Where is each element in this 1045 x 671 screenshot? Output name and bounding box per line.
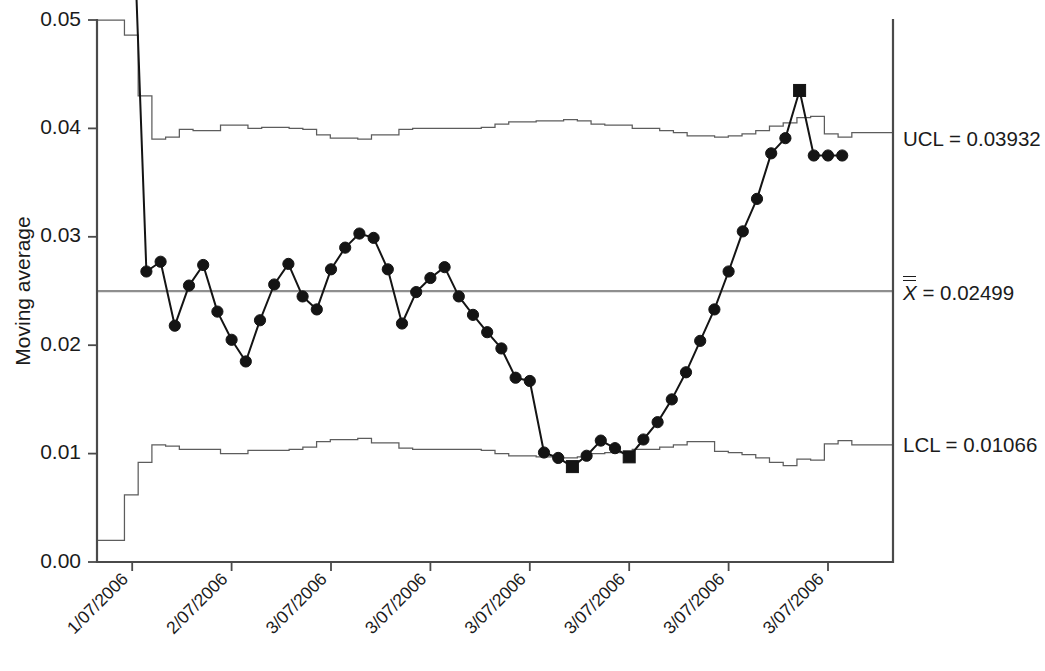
x-axis-ticks (132, 562, 828, 571)
data-point-violation (566, 461, 578, 473)
data-point (666, 394, 677, 405)
data-series (118, 0, 848, 473)
data-point (198, 259, 209, 270)
data-point (553, 452, 564, 463)
data-point (368, 232, 379, 243)
data-point (709, 304, 720, 315)
data-point (354, 228, 365, 239)
data-point (538, 447, 549, 458)
control-limit-lines (97, 20, 893, 540)
lcl-stepped-line (97, 438, 893, 540)
data-point (822, 150, 833, 161)
x-tick-label: 3/07/2006 (460, 569, 529, 638)
data-point (766, 148, 777, 159)
data-point (638, 434, 649, 445)
data-point (609, 443, 620, 454)
data-point (254, 315, 265, 326)
data-point (297, 291, 308, 302)
axis-labels: 0.000.010.020.030.040.05 1/07/20062/07/2… (11, 7, 828, 638)
lcl-annotation: LCL = 0.01066 (903, 435, 1037, 456)
data-point-violation (623, 451, 635, 463)
data-point (240, 356, 251, 367)
data-point (524, 375, 535, 386)
y-tick-label: 0.04 (40, 115, 81, 138)
data-point (695, 335, 706, 346)
data-point (496, 343, 507, 354)
data-point (183, 280, 194, 291)
data-point (780, 133, 791, 144)
y-tick-label: 0.01 (40, 440, 81, 463)
x-tick-label: 3/07/2006 (659, 569, 728, 638)
x-tick-label: 2/07/2006 (162, 569, 231, 638)
chart-canvas: 0.000.010.020.030.040.05 1/07/20062/07/2… (0, 0, 1045, 671)
data-point (595, 435, 606, 446)
data-point (340, 242, 351, 253)
data-point (467, 309, 478, 320)
data-point (723, 266, 734, 277)
data-point (680, 367, 691, 378)
moving-average-line (118, 0, 842, 467)
data-point (425, 272, 436, 283)
center-line-symbol: X (903, 281, 917, 304)
data-point-markers (141, 84, 848, 472)
data-point (382, 264, 393, 275)
axes (88, 20, 893, 571)
x-tick-label: 3/07/2006 (262, 569, 331, 638)
ucl-annotation: UCL = 0.03932 (903, 129, 1041, 150)
y-tick-labels: 0.000.010.020.030.040.05 (40, 7, 81, 572)
x-tick-label: 3/07/2006 (759, 569, 828, 638)
x-tick-label: 3/07/2006 (560, 569, 629, 638)
data-point (141, 266, 152, 277)
data-point (283, 258, 294, 269)
data-point (837, 150, 848, 161)
data-point (411, 286, 422, 297)
x-tick-label: 1/07/2006 (63, 569, 132, 638)
ucl-stepped-line (97, 20, 893, 139)
data-point (581, 450, 592, 461)
x-tick-labels: 1/07/20062/07/20063/07/20063/07/20063/07… (63, 569, 828, 638)
data-point (439, 262, 450, 273)
data-point (808, 150, 819, 161)
y-tick-label: 0.03 (40, 223, 81, 246)
data-point (396, 318, 407, 329)
data-point (325, 264, 336, 275)
data-point (269, 279, 280, 290)
data-point (482, 327, 493, 338)
data-point (155, 256, 166, 267)
data-point (510, 372, 521, 383)
data-point (212, 306, 223, 317)
y-tick-label: 0.05 (40, 7, 81, 30)
y-axis-ticks (88, 20, 97, 562)
data-point (751, 193, 762, 204)
x-tick-label: 3/07/2006 (361, 569, 430, 638)
y-tick-label: 0.02 (40, 332, 81, 355)
data-point (652, 417, 663, 428)
y-axis-title: Moving average (11, 216, 34, 365)
center-line-value: = 0.02499 (917, 281, 1014, 304)
y-tick-label: 0.00 (40, 549, 81, 572)
data-point (169, 320, 180, 331)
center-line-annotation: X = 0.02499 (903, 281, 1014, 304)
data-point (737, 226, 748, 237)
data-point (453, 291, 464, 302)
data-point-violation (794, 84, 806, 96)
data-point (226, 334, 237, 345)
control-chart: 0.000.010.020.030.040.05 1/07/20062/07/2… (0, 0, 1045, 671)
data-point (311, 304, 322, 315)
